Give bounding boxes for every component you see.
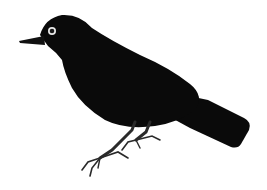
bird-illustration	[0, 0, 267, 190]
bird-leg-front	[82, 122, 135, 176]
bird-beak	[19, 36, 45, 45]
blackbird-figure	[0, 0, 267, 190]
bird-body	[40, 15, 199, 127]
eye-pupil	[50, 29, 55, 34]
